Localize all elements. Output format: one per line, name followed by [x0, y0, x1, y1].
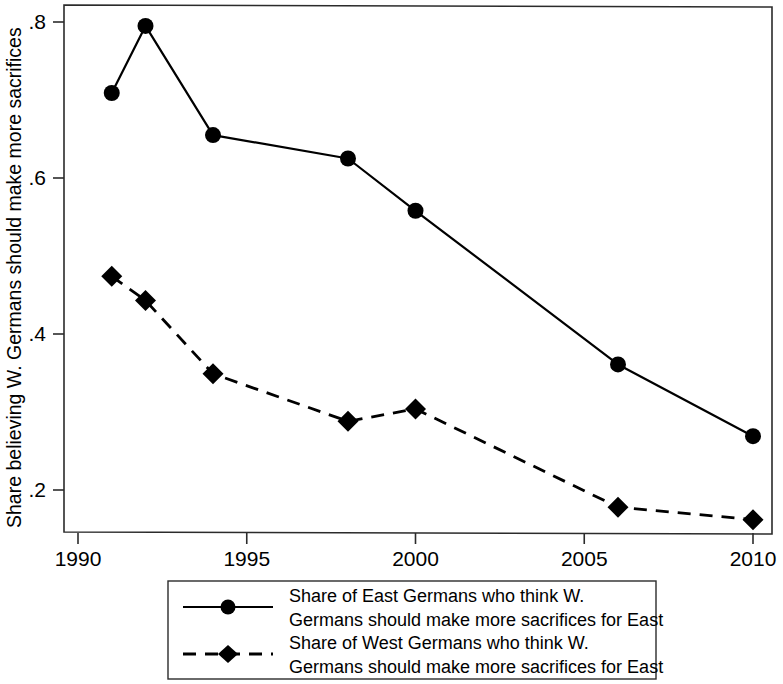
y-tick-label: .8	[28, 10, 46, 33]
y-axis-ticks: .8.6.4.2	[28, 10, 64, 501]
y-tick-label: .2	[28, 478, 46, 501]
data-point-circle	[138, 18, 154, 34]
plot-frame	[64, 5, 772, 534]
legend-entry-west[interactable]: Share of West Germans who think W. Germa…	[183, 633, 663, 677]
data-point-circle	[408, 203, 424, 219]
y-tick-label: .6	[28, 166, 46, 189]
data-point-circle	[610, 356, 626, 372]
data-point-diamond	[338, 411, 359, 432]
x-tick-label: 1995	[223, 547, 270, 570]
line-chart: Share believing W. Germans should make m…	[0, 0, 783, 684]
data-series-layer	[101, 18, 763, 530]
legend-label-east-line1: Share of East Germans who think W.	[289, 586, 584, 606]
legend-label-west-line2: Germans should make more sacrifices for …	[289, 657, 663, 677]
data-point-diamond	[203, 363, 224, 384]
legend-marker-diamond	[218, 645, 238, 663]
x-tick-label: 2010	[730, 547, 777, 570]
data-point-diamond	[608, 497, 629, 518]
legend-label-west-line1: Share of West Germans who think W.	[289, 633, 589, 653]
y-tick-label: .4	[28, 322, 46, 345]
data-series-west	[101, 266, 763, 530]
data-point-circle	[104, 85, 120, 101]
x-tick-label: 2000	[392, 547, 439, 570]
series-line	[112, 276, 753, 519]
chart-legend: Share of East Germans who think W. Germa…	[168, 581, 663, 679]
chart-container: Share believing W. Germans should make m…	[0, 0, 783, 684]
data-point-diamond	[405, 398, 426, 419]
data-point-circle	[205, 127, 221, 143]
x-tick-label: 2005	[561, 547, 608, 570]
data-point-circle	[340, 151, 356, 167]
y-axis-title: Share believing W. Germans should make m…	[3, 27, 25, 528]
x-axis-ticks: 19901995200020052010	[55, 533, 777, 570]
x-tick-label: 1990	[55, 547, 102, 570]
data-series-east	[104, 18, 761, 444]
legend-label-east-line2: Germans should make more sacrifices for …	[289, 610, 663, 630]
data-point-diamond	[101, 266, 122, 287]
data-point-circle	[745, 428, 761, 444]
legend-entry-east[interactable]: Share of East Germans who think W. Germa…	[183, 586, 663, 630]
legend-marker-circle	[221, 600, 236, 615]
data-point-diamond	[743, 509, 764, 530]
